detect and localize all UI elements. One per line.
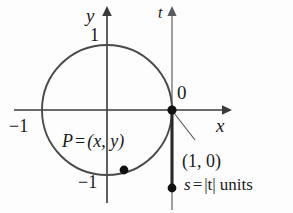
tick-label-y-one: 1 — [90, 26, 99, 44]
y-axis-arrowhead — [102, 6, 112, 16]
unit-circle-figure: y t x 1 −1 −1 0 P=(x, y) (1, 0) s=|t|uni… — [0, 0, 293, 213]
one-zero-leader-line — [174, 113, 195, 140]
arc-length-units: units — [216, 175, 253, 194]
x-axis-arrowhead — [222, 105, 232, 115]
tick-label-x-negative-one: −1 — [9, 117, 28, 135]
point-p-annotation: P=(x, y) — [62, 132, 124, 150]
tick-label-t-zero: 0 — [177, 83, 187, 102]
tick-label-y-negative-one: −1 — [78, 173, 97, 191]
point-p-name: P — [62, 131, 73, 151]
point-p-marker — [120, 166, 129, 175]
point-p-equals: = — [73, 131, 87, 151]
arc-length-s: s — [184, 175, 191, 194]
point-one-zero-marker — [167, 105, 176, 114]
arc-length-annotation: s=|t|units — [184, 176, 253, 193]
t-axis-label: t — [158, 5, 162, 21]
arc-length-abs-t: |t| — [204, 175, 216, 194]
y-axis-label: y — [86, 6, 94, 25]
point-one-zero-annotation: (1, 0) — [182, 152, 221, 170]
arc-length-equals: = — [191, 175, 205, 194]
t-axis-endpoint-marker — [168, 184, 177, 193]
x-axis — [14, 105, 232, 115]
x-axis-label: x — [216, 116, 224, 135]
point-p-coords: (x, y) — [87, 131, 124, 151]
y-axis — [102, 6, 112, 203]
t-axis-arrowhead — [167, 6, 176, 16]
